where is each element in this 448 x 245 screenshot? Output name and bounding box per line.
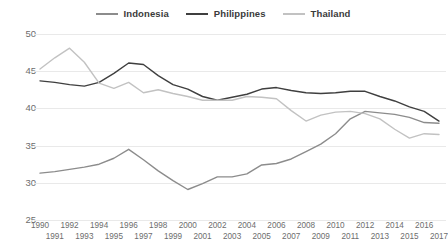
y-tick-label: 40 [2,103,36,113]
x-tick-label: 1996 [120,222,138,230]
legend-label-indonesia: Indonesia [124,9,169,19]
x-tick-label: 2010 [326,222,344,230]
x-tick-label: 2013 [371,233,389,241]
plot-area [40,34,439,220]
x-tick-label: 2000 [179,222,197,230]
legend-item-indonesia[interactable]: Indonesia [96,9,169,19]
x-tick-label: 1992 [60,222,78,230]
x-tick-label: 2017 [430,233,448,241]
y-tick-label: 30 [2,178,36,188]
x-tick-label: 1990 [31,222,49,230]
series-line-thailand [40,48,439,138]
y-axis: 253035404550 [0,0,36,245]
legend-item-philippines[interactable]: Philippines [186,9,266,19]
x-tick-label: 2016 [415,222,433,230]
legend-label-philippines: Philippines [214,9,266,19]
x-tick-label: 2003 [223,233,241,241]
legend-swatch-thailand [283,13,305,15]
series-lines [40,48,439,189]
x-tick-label: 2007 [282,233,300,241]
legend-label-thailand: Thailand [311,9,351,19]
x-tick-label: 2005 [253,233,271,241]
x-axis: 1990199119921993199419951996199719981999… [40,221,439,245]
x-tick-label: 2012 [356,222,374,230]
chart-legend: Indonesia Philippines Thailand [0,9,446,19]
y-tick-label: 45 [2,66,36,76]
x-tick-label: 2014 [386,222,404,230]
x-tick-label: 1995 [105,233,123,241]
x-tick-label: 2011 [342,233,360,241]
x-tick-label: 1994 [90,222,108,230]
x-tick-label: 1993 [75,233,93,241]
x-tick-label: 1999 [164,233,182,241]
x-tick-label: 2015 [400,233,418,241]
legend-swatch-indonesia [96,13,118,15]
x-tick-label: 2008 [297,222,315,230]
x-tick-label: 2002 [208,222,226,230]
legend-item-thailand[interactable]: Thailand [283,9,351,19]
x-tick-label: 1997 [134,233,152,241]
x-tick-label: 2006 [267,222,285,230]
gridlines [34,35,446,221]
series-line-indonesia [40,111,439,189]
legend-swatch-philippines [186,13,208,15]
x-tick-label: 1998 [149,222,167,230]
y-tick-label: 50 [2,29,36,39]
x-tick-label: 1991 [46,233,64,241]
plot-svg [40,34,439,220]
x-tick-label: 2001 [193,233,211,241]
x-tick-label: 2009 [312,233,330,241]
y-tick-label: 35 [2,141,36,151]
x-tick-label: 2004 [238,222,256,230]
